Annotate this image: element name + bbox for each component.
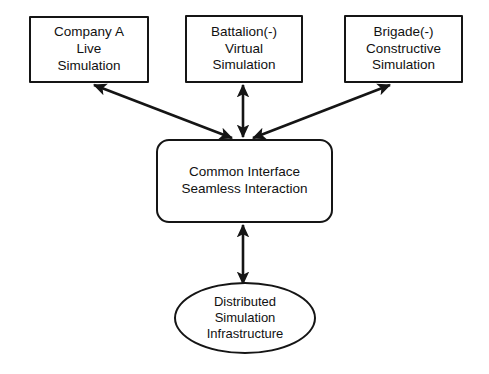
node-interface-line-1: Common Interface <box>189 164 300 181</box>
node-brigade-constructive-simulation[interactable]: Brigade(-) Constructive Simulation <box>344 15 463 83</box>
node-constructive-line-2: Constructive <box>366 41 441 58</box>
node-infrastructure-line-3: Infrastructure <box>207 326 284 342</box>
node-live-line-3: Simulation <box>57 58 120 75</box>
edge-interface-constructive <box>253 85 390 138</box>
node-interface-line-2: Seamless Interaction <box>181 181 307 198</box>
node-virtual-line-3: Simulation <box>212 57 275 74</box>
node-live-line-1: Company A <box>54 24 124 41</box>
node-common-interface-seamless-interaction[interactable]: Common Interface Seamless Interaction <box>156 139 333 223</box>
edge-interface-live <box>94 85 232 138</box>
node-virtual-line-1: Battalion(-) <box>211 24 277 41</box>
node-company-a-live-simulation[interactable]: Company A Live Simulation <box>29 16 149 83</box>
node-distributed-simulation-infrastructure[interactable]: Distributed Simulation Infrastructure <box>174 282 316 354</box>
node-virtual-line-2: Virtual <box>225 41 263 58</box>
diagram-canvas: Company A Live Simulation Battalion(-) V… <box>0 0 489 374</box>
node-constructive-line-1: Brigade(-) <box>373 24 433 41</box>
node-battalion-virtual-simulation[interactable]: Battalion(-) Virtual Simulation <box>185 15 303 83</box>
node-live-line-2: Live <box>77 41 102 58</box>
node-infrastructure-line-2: Simulation <box>215 310 276 326</box>
node-infrastructure-line-1: Distributed <box>214 294 276 310</box>
node-constructive-line-3: Simulation <box>372 57 435 74</box>
